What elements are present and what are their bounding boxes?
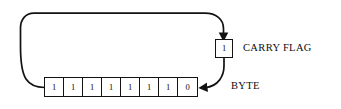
byte-register: 1 1 1 1 1 1 1 0	[44, 77, 198, 97]
carry-flag-label: CARRY FLAG	[243, 43, 312, 54]
bit-cell: 1	[102, 78, 121, 96]
byte-label: BYTE	[231, 81, 260, 92]
carry-to-byte-arrow	[206, 59, 225, 88]
bit-cell: 1	[121, 78, 140, 96]
bit-cell: 0	[178, 78, 197, 96]
carry-flag-box: 1	[215, 39, 233, 58]
bit-cell: 1	[159, 78, 178, 96]
bit-cell: 1	[45, 78, 64, 96]
bit-cell: 1	[64, 78, 83, 96]
rotate-through-carry-diagram: 1 1 1 1 1 1 1 0 1 CARRY FLAG BYTE	[0, 0, 341, 109]
bit-cell: 1	[83, 78, 102, 96]
bit-cell: 1	[140, 78, 159, 96]
